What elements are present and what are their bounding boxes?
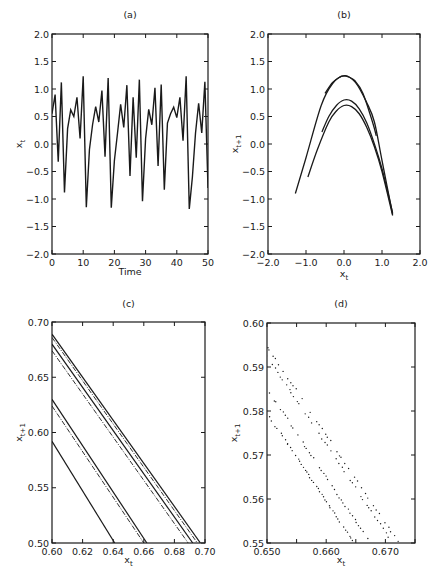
y-axis-label: xt+1 <box>229 135 243 154</box>
y-tick-label: 0.60 <box>28 427 49 438</box>
y-tick-label: 0.0 <box>250 139 265 150</box>
data-point <box>290 382 291 383</box>
data-point <box>349 512 350 513</box>
data-point <box>305 448 306 449</box>
data-point <box>277 372 278 373</box>
data-point <box>329 505 330 506</box>
y-tick-label: −0.5 <box>26 166 49 177</box>
return-map-line <box>52 399 147 543</box>
plot-frame <box>267 323 415 543</box>
data-point <box>282 371 283 372</box>
data-point <box>283 411 284 412</box>
data-point <box>319 467 320 468</box>
data-point <box>361 487 362 488</box>
panel-title: (a) <box>123 9 136 20</box>
data-point <box>338 497 339 498</box>
data-point <box>319 491 320 492</box>
return-map-line <box>52 344 193 543</box>
data-point <box>332 510 333 511</box>
data-point <box>343 471 344 472</box>
y-tick-label: 0.65 <box>28 372 49 383</box>
data-point <box>394 535 395 536</box>
y-tick-label: −2.0 <box>26 249 49 260</box>
y-tick-label: 2.0 <box>34 29 49 40</box>
data-point <box>272 355 273 356</box>
y-tick-label: −1.5 <box>26 221 49 232</box>
data-point <box>377 520 378 521</box>
data-point <box>342 502 343 503</box>
data-point <box>276 428 277 429</box>
data-point <box>374 516 375 517</box>
return-map-curve <box>295 76 392 215</box>
data-point <box>316 486 317 487</box>
data-point <box>384 522 385 523</box>
data-point <box>342 467 343 468</box>
data-point <box>380 523 381 524</box>
data-point <box>285 439 286 440</box>
x-tick-label: 40 <box>171 257 183 268</box>
return-map-line <box>52 406 144 543</box>
data-point <box>291 450 292 451</box>
data-point <box>337 518 338 519</box>
data-point <box>334 489 335 490</box>
data-point <box>373 505 374 506</box>
data-point <box>292 385 293 386</box>
data-point <box>388 526 389 527</box>
data-point <box>325 475 326 476</box>
data-point <box>308 474 309 475</box>
x-tick-label: 0 <box>49 257 55 268</box>
y-tick-label: 0.58 <box>243 406 264 417</box>
x-axis-label: xt <box>337 554 346 568</box>
data-point <box>339 455 340 456</box>
x-tick-label: 0.66 <box>133 546 154 557</box>
y-axis-label: xt+1 <box>13 423 27 442</box>
plot-area <box>295 76 392 216</box>
data-point <box>290 392 291 393</box>
data-point <box>301 464 302 465</box>
plot-area <box>52 334 200 543</box>
data-point <box>367 497 368 498</box>
data-point <box>323 473 324 474</box>
x-tick-label: 0.68 <box>164 546 185 557</box>
x-tick-label: 0.62 <box>72 546 93 557</box>
data-point <box>323 496 324 497</box>
data-point <box>311 480 312 481</box>
data-point <box>291 425 292 426</box>
data-point <box>366 505 367 506</box>
data-point <box>298 458 299 459</box>
data-point <box>331 485 332 486</box>
data-point <box>349 480 350 481</box>
data-point <box>287 417 288 418</box>
data-point <box>327 479 328 480</box>
plot-area <box>266 347 399 542</box>
data-point <box>282 435 283 436</box>
data-point <box>309 477 310 478</box>
data-point <box>350 537 351 538</box>
data-point <box>305 470 306 471</box>
y-tick-label: 0.5 <box>34 111 49 122</box>
data-point <box>368 507 369 508</box>
data-point <box>325 434 326 435</box>
data-point <box>281 432 282 433</box>
data-point <box>280 409 281 410</box>
data-point <box>285 415 286 416</box>
data-point <box>335 458 336 459</box>
data-point <box>313 482 314 483</box>
data-point <box>271 420 272 421</box>
data-point <box>390 531 391 532</box>
data-point <box>387 537 388 538</box>
panel-title: (d) <box>334 298 347 309</box>
data-point <box>347 531 348 532</box>
chart-panel-c: (c)0.600.620.640.660.680.700.500.550.600… <box>13 298 216 568</box>
y-tick-label: −1.0 <box>26 194 49 205</box>
y-tick-label: 0.60 <box>243 318 264 329</box>
figure: (a)01020304050−2.0−1.5−1.0−0.50.00.51.01… <box>0 0 433 576</box>
y-tick-label: 0.56 <box>243 494 264 505</box>
data-point <box>280 376 281 377</box>
data-point <box>269 392 270 393</box>
data-point <box>298 403 299 404</box>
y-tick-label: 1.0 <box>250 84 265 95</box>
plot-frame <box>52 322 205 543</box>
data-point <box>354 476 355 477</box>
panel-title: (b) <box>337 9 350 20</box>
